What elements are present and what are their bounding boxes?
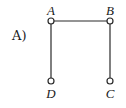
node-label-a: A [46,3,55,18]
node-label-c: C [106,86,115,101]
option-label: A) [11,28,26,43]
node-label-d: D [45,86,56,101]
nodes [48,18,113,84]
node-b [107,18,113,24]
graph-diagram: A) A B C D [0,0,126,108]
node-d [48,78,54,84]
edges [51,21,110,81]
node-a [48,18,54,24]
node-c [107,78,113,84]
node-labels: A B C D [45,3,114,101]
node-label-b: B [106,3,114,18]
